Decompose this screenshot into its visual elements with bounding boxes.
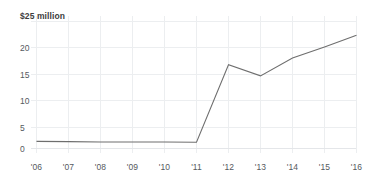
- x-tick-label-16: '16: [351, 162, 363, 172]
- y-tick-label-5: 5: [20, 123, 25, 133]
- x-tick-label-12: '12: [223, 162, 235, 172]
- x-tick-label-07: '07: [63, 162, 75, 172]
- y-tick-label-10: 10: [20, 96, 30, 106]
- x-tick-label-11: '11: [191, 162, 202, 172]
- line-chart: $25 million 20 15 10 5 0 '06 '07 '08 '09…: [0, 0, 368, 185]
- y-axis-unit-label: $25 million: [20, 11, 65, 21]
- x-tick-label-06: '06: [31, 162, 43, 172]
- y-tick-label-20: 20: [20, 43, 30, 53]
- x-tick-label-10: '10: [159, 162, 171, 172]
- chart-canvas: $25 million 20 15 10 5 0 '06 '07 '08 '09…: [0, 0, 368, 185]
- y-tick-label-15: 15: [20, 70, 30, 80]
- x-tick-label-15: '15: [319, 162, 331, 172]
- x-tick-label-13: '13: [255, 162, 267, 172]
- horizontal-gridlines: [31, 22, 356, 128]
- y-axis-labels: $25 million 20 15 10 5 0: [20, 11, 65, 154]
- x-tick-label-09: '09: [127, 162, 139, 172]
- x-axis-labels: '06 '07 '08 '09 '10 '11 '12 '13 '14 '15 …: [31, 162, 363, 172]
- y-tick-label-0: 0: [20, 144, 25, 154]
- x-tick-label-14: '14: [287, 162, 299, 172]
- x-tick-label-08: '08: [95, 162, 107, 172]
- vertical-gridlines: [37, 16, 357, 153]
